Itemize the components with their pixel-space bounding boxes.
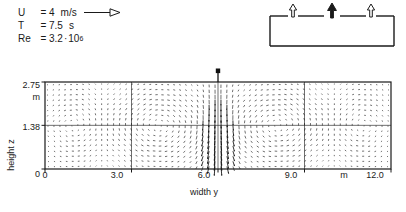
velocity-vector (190, 166, 191, 167)
velocity-vector (78, 130, 79, 131)
velocity-vector (184, 136, 185, 138)
velocity-vector (375, 141, 376, 142)
velocity-vector (59, 120, 60, 121)
velocity-vector (387, 156, 388, 157)
velocity-vector (297, 89, 299, 90)
velocity-vector (285, 114, 287, 115)
velocity-vector (322, 103, 323, 105)
velocity-vector (315, 94, 316, 95)
velocity-vector (167, 100, 169, 101)
velocity-vector (239, 161, 240, 164)
velocity-vector (84, 145, 86, 146)
velocity-vector (147, 140, 149, 141)
velocity-vector (346, 94, 347, 95)
velocity-vector (266, 105, 268, 106)
velocity-vector (381, 156, 382, 157)
velocity-vector (95, 108, 96, 110)
velocity-vector (310, 166, 311, 167)
velocity-vector (287, 129, 288, 130)
velocity-vector (142, 129, 143, 131)
velocity-vector (84, 150, 86, 151)
velocity-vector (346, 89, 347, 90)
velocity-vector (58, 105, 60, 106)
velocity-vector (191, 131, 192, 134)
velocity-vector (244, 85, 245, 86)
velocity-vector-head (220, 110, 221, 111)
velocity-vector (185, 120, 186, 123)
velocity-vector (340, 139, 341, 141)
velocity-vector (185, 85, 186, 86)
velocity-vector (141, 155, 143, 156)
velocity-vector (299, 139, 301, 141)
velocity-vector (245, 141, 246, 144)
velocity-vector (357, 135, 359, 136)
velocity-vector (88, 104, 89, 105)
velocity-vector (126, 89, 127, 90)
velocity-vector (261, 95, 263, 96)
velocity-vector (143, 94, 145, 95)
velocity-vector (287, 150, 289, 151)
velocity-vector (60, 131, 61, 132)
velocity-vector (95, 84, 96, 85)
velocity-vector (196, 141, 197, 145)
velocity-vector (340, 89, 341, 90)
velocity-vector (322, 150, 323, 151)
parameter-equals: = (38, 32, 49, 45)
velocity-vector (54, 156, 55, 157)
velocity-vector (197, 85, 198, 86)
velocity-vector (293, 161, 295, 162)
parameter-row-U: U = 4 m/s (18, 6, 122, 19)
velocity-vector (135, 145, 137, 146)
velocity-vector (64, 110, 66, 111)
velocity-vector (322, 144, 323, 146)
velocity-vector-head (220, 104, 221, 105)
velocity-vector (352, 99, 354, 100)
velocity-vector (293, 155, 295, 156)
velocity-vector (173, 100, 175, 101)
velocity-vector (250, 120, 251, 123)
velocity-vector (47, 100, 48, 101)
velocity-vector (251, 151, 253, 153)
velocity-vector (179, 100, 181, 101)
velocity-vector (185, 105, 187, 107)
velocity-vector (358, 110, 360, 111)
velocity-vector (257, 136, 258, 138)
velocity-vector (255, 100, 257, 101)
velocity-vector (339, 160, 340, 161)
velocity-vector (309, 84, 310, 85)
velocity-vector (382, 110, 383, 111)
velocity-vector (125, 134, 126, 136)
velocity-vector (375, 146, 377, 147)
velocity-vector (309, 113, 310, 115)
velocity-vector (232, 90, 233, 92)
velocity-vector (297, 113, 298, 115)
velocity-vector (96, 155, 97, 156)
velocity-vector (136, 134, 137, 136)
velocity-vector (279, 120, 280, 121)
velocity-vector (124, 150, 126, 151)
velocity-vector (173, 95, 175, 96)
velocity-vector (58, 110, 59, 111)
velocity-vector (257, 166, 259, 167)
velocity-vector (143, 114, 145, 116)
velocity-vector (244, 90, 245, 91)
velocity-vector (89, 84, 90, 85)
velocity-vector (350, 156, 352, 157)
velocity-vector (257, 146, 259, 147)
velocity-vector (243, 100, 244, 102)
velocity-vector (108, 94, 109, 95)
velocity-vector (197, 115, 198, 118)
velocity-vector (388, 110, 389, 111)
velocity-vector (64, 115, 65, 116)
velocity-vector (120, 108, 121, 110)
velocity-vector (370, 115, 371, 116)
velocity-vector (149, 109, 151, 110)
velocity-vector (178, 131, 179, 133)
velocity-vector (66, 136, 68, 137)
velocity-vector (309, 94, 310, 95)
velocity-vector (350, 145, 352, 146)
velocity-vector (126, 99, 128, 100)
velocity-vector (143, 99, 145, 100)
velocity-vector (118, 160, 119, 161)
enclosure-schematic (262, 2, 402, 50)
